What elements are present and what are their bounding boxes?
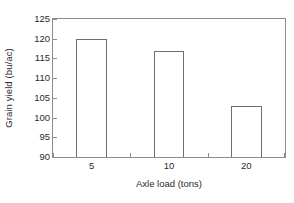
y-tick-mark [53, 19, 57, 20]
y-axis-tick-labels: 9095100105110115120125 [20, 0, 50, 203]
plot-inner [53, 19, 285, 157]
bar [76, 39, 107, 157]
x-tick-mark [53, 153, 54, 157]
y-tick-label: 110 [20, 73, 50, 83]
y-tick-mark [53, 137, 57, 138]
x-tick-mark [208, 153, 209, 157]
y-tick-label: 120 [20, 34, 50, 44]
y-tick-mark [53, 39, 57, 40]
y-tick-label: 105 [20, 93, 50, 103]
x-axis-tick-labels: 51020 [52, 160, 286, 174]
x-tick-label: 5 [72, 160, 112, 172]
plot-area [52, 18, 286, 158]
y-axis-title: Grain yield (bu/ac) [2, 8, 16, 168]
y-tick-mark [53, 98, 57, 99]
y-tick-mark [53, 78, 57, 79]
x-tick-mark [284, 153, 285, 157]
y-tick-label: 115 [20, 53, 50, 63]
y-tick-mark [53, 118, 57, 119]
bar [154, 51, 185, 157]
y-tick-label: 95 [20, 132, 50, 142]
bar [231, 106, 262, 157]
x-tick-label: 20 [226, 160, 266, 172]
x-tick-mark [130, 153, 131, 157]
y-tick-mark [53, 58, 57, 59]
y-tick-label: 100 [20, 113, 50, 123]
y-tick-mark [53, 157, 57, 158]
x-axis-title: Axle load (tons) [52, 178, 286, 190]
y-tick-label: 125 [20, 14, 50, 24]
bar-chart-figure: Grain yield (bu/ac) 90951001051101151201… [0, 0, 294, 203]
y-tick-label: 90 [20, 152, 50, 162]
x-tick-label: 10 [149, 160, 189, 172]
